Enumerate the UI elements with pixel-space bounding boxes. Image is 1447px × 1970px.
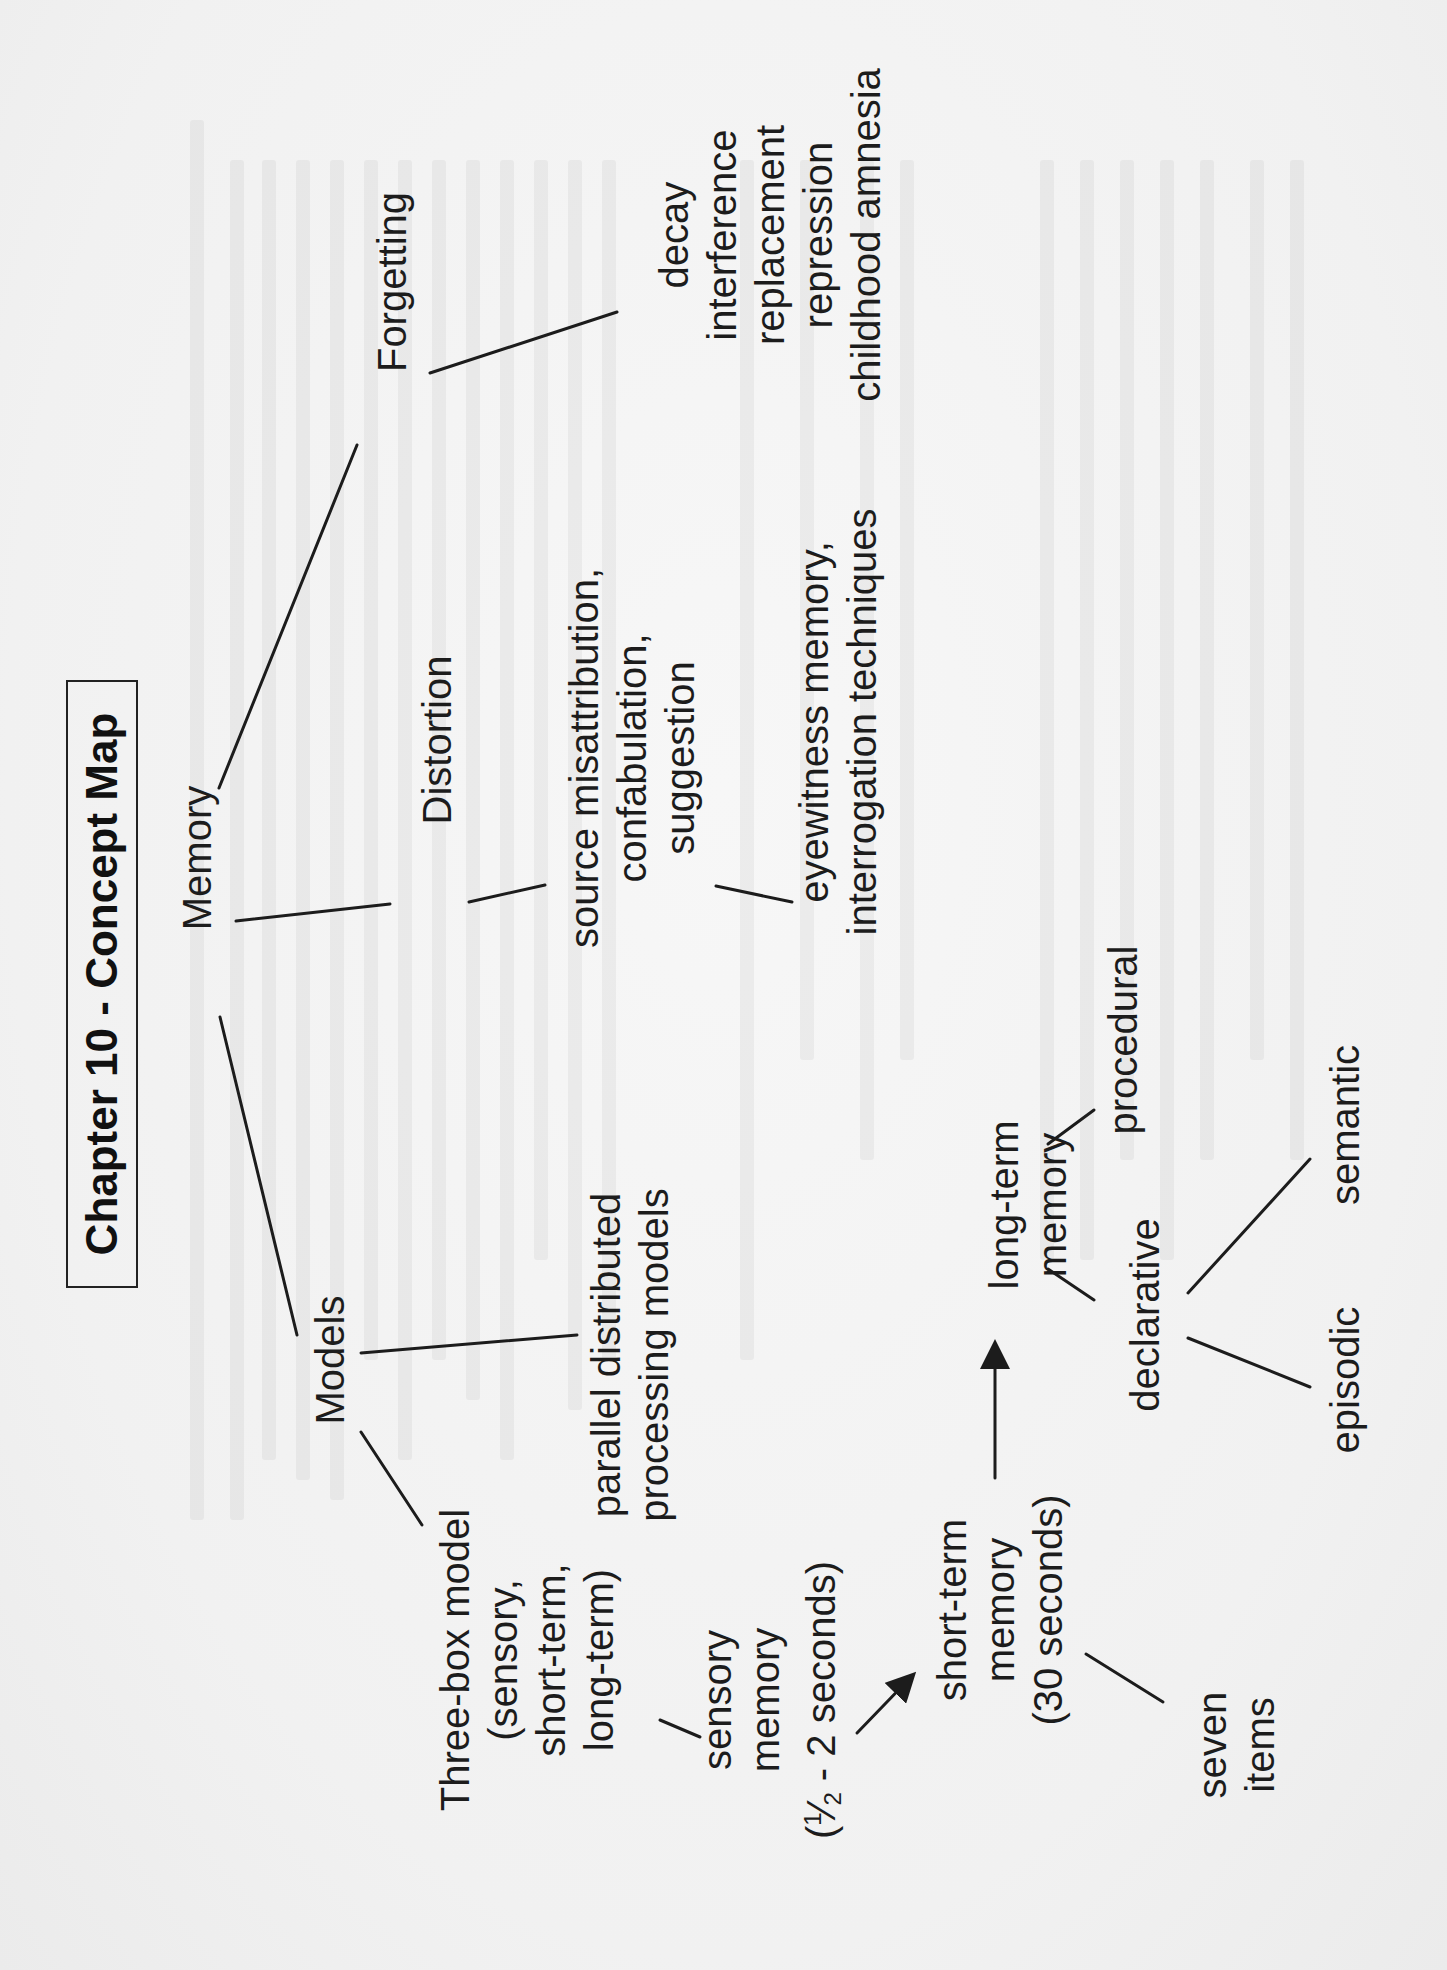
list-item: decay	[650, 68, 698, 402]
node-declarative-label: declarative	[1121, 1218, 1169, 1411]
fraction-numerator: 1	[799, 1812, 826, 1825]
list-item: memory	[976, 1494, 1024, 1725]
edge-memory-models	[220, 1017, 297, 1335]
list-item: memory	[1028, 1121, 1076, 1290]
node-seven-items: seven items	[1188, 1692, 1284, 1799]
node-procedural-label: procedural	[1099, 945, 1147, 1134]
list-item: interrogation techniques	[838, 509, 886, 936]
edge-suggestion-eyewitness	[716, 886, 792, 902]
list-item: eyewitness memory,	[790, 509, 838, 936]
page-title: Chapter 10 - Concept Map	[77, 713, 127, 1256]
node-models-label: Models	[306, 1296, 354, 1425]
node-short-term-memory: short-term memory (30 seconds)	[928, 1494, 1072, 1725]
duration-suffix: - 2 seconds)	[799, 1561, 843, 1792]
list-item: long-term	[980, 1121, 1028, 1290]
paren-open: (	[799, 1826, 843, 1839]
list-item: processing models	[630, 1188, 678, 1522]
fraction-denominator: 2	[819, 1792, 846, 1805]
list-item: repression	[794, 68, 842, 402]
list-item: short-term	[928, 1494, 976, 1725]
edge-models-pdp	[361, 1335, 577, 1353]
edge-shortterm-seven	[1086, 1654, 1163, 1702]
node-pdp-models: parallel distributed processing models	[582, 1188, 678, 1522]
list-item: sensory	[693, 1561, 741, 1839]
sensory-duration: (1⁄2 - 2 seconds)	[789, 1561, 857, 1839]
node-three-box-model: Three-box model (sensory, short-term, lo…	[431, 1509, 623, 1811]
node-episodic: episodic	[1321, 1307, 1369, 1454]
list-item: suggestion	[656, 568, 704, 948]
edge-memory-forgetting	[219, 445, 357, 788]
edge-models-threebox	[361, 1432, 422, 1525]
node-forgetting-label: Forgetting	[368, 192, 416, 372]
node-distortion-types: source misattribution, confabulation, su…	[560, 568, 704, 948]
fraction-slash: ⁄	[799, 1806, 843, 1813]
edge-forgetting-types	[430, 312, 617, 373]
node-memory-label: Memory	[173, 786, 221, 930]
list-item: confabulation,	[608, 568, 656, 948]
node-semantic: semantic	[1321, 1045, 1369, 1205]
edge-declarative-episodic	[1188, 1338, 1310, 1387]
edge-sensory-shortterm-arrow	[857, 1676, 912, 1733]
edge-declarative-semantic	[1188, 1159, 1310, 1293]
list-item: items	[1236, 1692, 1284, 1799]
node-declarative: declarative	[1121, 1218, 1169, 1411]
list-item: parallel distributed	[582, 1188, 630, 1522]
node-forgetting-types: decay interference replacement repressio…	[650, 68, 890, 402]
list-item: (sensory,	[479, 1509, 527, 1811]
node-distortion-label: Distortion	[413, 656, 461, 825]
node-long-term-memory: long-term memory	[980, 1121, 1076, 1290]
list-item: short-term,	[527, 1509, 575, 1811]
list-item: replacement	[746, 68, 794, 402]
list-item: source misattribution,	[560, 568, 608, 948]
list-item: childhood amnesia	[842, 68, 890, 402]
list-item: (30 seconds)	[1024, 1494, 1072, 1725]
node-procedural: procedural	[1099, 945, 1147, 1134]
list-item: interference	[698, 68, 746, 402]
node-sensory-memory: sensory memory (1⁄2 - 2 seconds)	[693, 1561, 857, 1839]
node-episodic-label: episodic	[1321, 1307, 1369, 1454]
list-item: long-term)	[575, 1509, 623, 1811]
node-forgetting: Forgetting	[368, 192, 416, 372]
list-item: seven	[1188, 1692, 1236, 1799]
edge-memory-distortion	[236, 904, 390, 921]
list-item: Three-box model	[431, 1509, 479, 1811]
list-item: memory	[741, 1561, 789, 1839]
node-memory: Memory	[173, 786, 221, 930]
edge-distortion-types	[469, 885, 545, 902]
node-distortion: Distortion	[413, 656, 461, 825]
node-distortion-applications: eyewitness memory, interrogation techniq…	[790, 509, 886, 936]
node-models: Models	[306, 1296, 354, 1425]
node-semantic-label: semantic	[1321, 1045, 1369, 1205]
